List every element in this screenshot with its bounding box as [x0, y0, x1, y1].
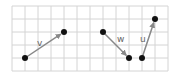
vector-tail-point — [100, 29, 106, 35]
vector-head-point — [61, 29, 67, 35]
vector-label: w — [117, 34, 124, 44]
vector-head-point — [152, 16, 158, 22]
vector-grid-diagram: vwu — [0, 0, 177, 76]
vector-tail-point — [139, 55, 145, 61]
vector-arrow — [25, 34, 61, 58]
vector-head-point — [126, 55, 132, 61]
vector-label: v — [37, 38, 43, 48]
vector-tail-point — [22, 55, 28, 61]
vector-label: u — [140, 34, 146, 44]
